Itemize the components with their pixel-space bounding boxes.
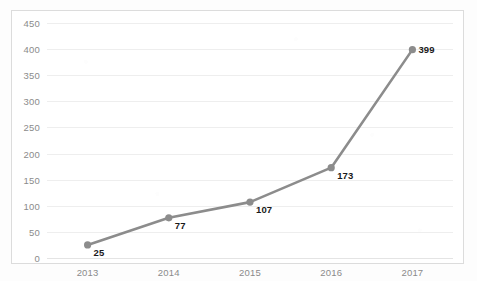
y-axis-tick-label: 150 [24, 174, 40, 185]
line-series [47, 23, 453, 258]
data-point-marker[interactable] [165, 214, 172, 221]
gridline [47, 258, 453, 259]
y-axis-tick-label: 100 [24, 200, 40, 211]
x-axis-tick-label: 2013 [77, 267, 99, 278]
y-axis-tick-label: 300 [24, 96, 40, 107]
data-point-marker[interactable] [84, 241, 91, 248]
data-point-label: 399 [418, 44, 434, 55]
y-axis-tick-label: 50 [29, 226, 40, 237]
series-markers [84, 46, 416, 249]
y-axis-tick-label: 400 [24, 44, 40, 55]
y-axis-tick-label: 250 [24, 122, 40, 133]
data-point-marker[interactable] [328, 164, 335, 171]
data-point-label: 107 [256, 204, 272, 215]
y-axis-tick-label: 200 [24, 148, 40, 159]
y-axis-tick-label: 0 [35, 253, 40, 264]
data-point-label: 173 [337, 170, 353, 181]
x-axis-tick-label: 2015 [239, 267, 261, 278]
data-point-label: 25 [94, 247, 105, 258]
series-polyline [88, 50, 413, 245]
data-point-marker[interactable] [409, 46, 416, 53]
data-point-label: 77 [175, 220, 186, 231]
x-axis-tick-label: 2016 [320, 267, 342, 278]
y-axis-tick-label: 350 [24, 70, 40, 81]
y-axis-tick-label: 450 [24, 18, 40, 29]
x-axis-tick-label: 2014 [158, 267, 180, 278]
chart-frame: 050100150200250300350400450 201320142015… [11, 10, 464, 264]
plot-area: 050100150200250300350400450 201320142015… [47, 23, 453, 258]
data-point-marker[interactable] [246, 199, 253, 206]
chart-page: 050100150200250300350400450 201320142015… [0, 0, 477, 281]
x-axis-tick-label: 2017 [401, 267, 423, 278]
